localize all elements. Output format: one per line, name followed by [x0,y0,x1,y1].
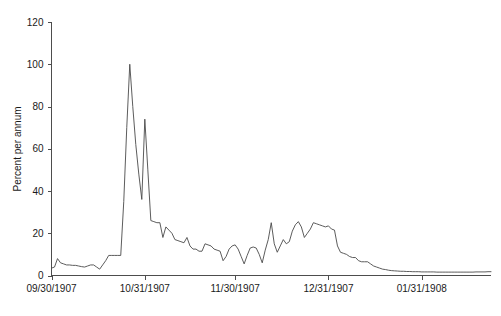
y-tick-label: 20 [32,228,44,239]
y-tick-label: 120 [27,17,44,28]
y-tick-label: 40 [32,186,44,197]
line-chart: 020406080100120 09/30/190710/31/190711/3… [0,0,501,316]
x-tick-label: 12/31/1907 [303,283,353,294]
x-tick-label: 09/30/1907 [26,283,76,294]
y-axis-title: Percent per annum [12,106,23,191]
chart-figure: 020406080100120 09/30/190710/31/190711/3… [0,0,501,316]
y-tick-label: 60 [32,143,44,154]
x-axis: 09/30/190710/31/190711/30/190712/31/1907… [26,276,491,294]
x-tick-label: 10/31/1907 [120,283,170,294]
y-tick-label: 0 [38,270,44,281]
data-series-line [52,64,492,272]
x-tick-label: 11/30/1907 [210,283,260,294]
x-tick-label: 01/31/1908 [397,283,447,294]
y-tick-label: 100 [27,59,44,70]
x-tick-group: 09/30/190710/31/190711/30/190712/31/1907… [26,276,447,294]
y-axis: 020406080100120 [27,17,52,282]
y-tick-label: 80 [32,101,44,112]
y-tick-group: 020406080100120 [27,17,52,282]
